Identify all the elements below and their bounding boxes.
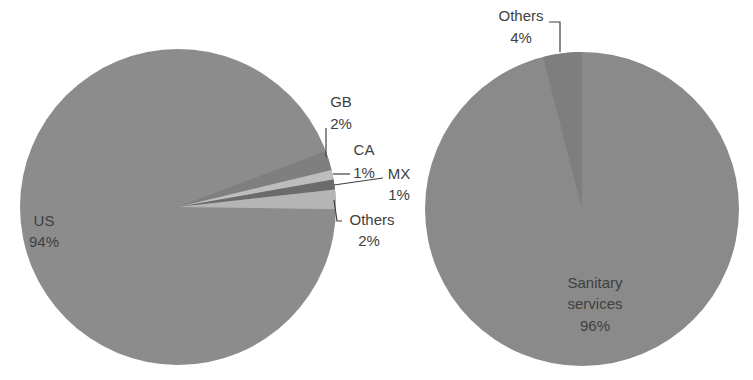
- label-us-pct: 94%: [29, 233, 59, 250]
- leader-others-right: [549, 22, 560, 52]
- label-sanitary-line2: services: [567, 295, 622, 312]
- label-others-left-pct: 2%: [358, 232, 380, 249]
- label-sanitary-pct: 96%: [580, 317, 610, 334]
- label-others-right-pct: 4%: [510, 29, 532, 46]
- left-pie-chart: US 94% GB 2% CA 1% MX 1% Others 2%: [20, 49, 410, 365]
- label-ca-name: CA: [354, 141, 375, 158]
- label-gb-pct: 2%: [330, 115, 352, 132]
- label-us-name: US: [34, 212, 55, 229]
- label-mx-name: MX: [388, 165, 411, 182]
- label-mx-pct: 1%: [388, 186, 410, 203]
- label-gb-name: GB: [330, 93, 352, 110]
- label-others-right-name: Others: [498, 7, 543, 24]
- pie-charts-canvas: US 94% GB 2% CA 1% MX 1% Others 2% Other…: [0, 0, 753, 380]
- right-pie-chart: Others 4% Sanitary services 96%: [425, 7, 739, 366]
- label-ca-pct: 1%: [353, 164, 375, 181]
- label-others-left-name: Others: [349, 211, 394, 228]
- label-sanitary-line1: Sanitary: [567, 274, 623, 291]
